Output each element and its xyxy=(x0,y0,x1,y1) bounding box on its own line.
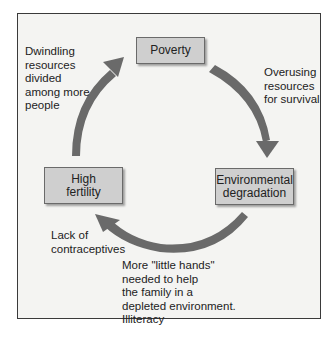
node-fertility-label-line1: High xyxy=(71,173,96,186)
arrow-poverty-to-degradation xyxy=(209,65,270,142)
node-high-fertility: High fertility xyxy=(44,167,123,204)
label-overusing-resources: Overusing resources for survival xyxy=(264,66,320,107)
label-line: Lack of xyxy=(51,229,125,243)
label-line: Dwindling xyxy=(25,45,90,59)
node-environmental-degradation: Environmental degradation xyxy=(215,168,294,205)
label-line: resources xyxy=(25,59,90,73)
arrowhead-poverty-to-degradation xyxy=(256,141,279,158)
label-line: people xyxy=(25,99,90,113)
label-line: for survival xyxy=(264,93,320,107)
node-poverty: Poverty xyxy=(136,37,205,64)
label-little-hands: More "little hands" needed to help the f… xyxy=(122,259,236,327)
label-line: needed to help xyxy=(122,273,236,287)
node-poverty-label: Poverty xyxy=(150,44,191,57)
label-line: divided xyxy=(25,72,90,86)
label-line: among more xyxy=(25,86,90,100)
label-line: resources xyxy=(264,80,320,94)
label-dwindling-resources: Dwindling resources divided among more p… xyxy=(25,45,90,113)
node-fertility-label-line2: fertility xyxy=(66,186,101,199)
label-line: Overusing xyxy=(264,66,320,80)
label-lack-of-contraceptives: Lack of contraceptives xyxy=(51,229,125,256)
label-line: the family in a xyxy=(122,286,236,300)
label-line: contraceptives xyxy=(51,243,125,257)
label-line: More "little hands" xyxy=(122,259,236,273)
node-env-label-line1: Environmental xyxy=(216,174,293,187)
node-env-label-line2: degradation xyxy=(223,187,286,200)
label-line: depleted environment. xyxy=(122,300,236,314)
arrow-degradation-to-fertility xyxy=(104,212,248,253)
label-line: Illiteracy xyxy=(122,313,236,327)
